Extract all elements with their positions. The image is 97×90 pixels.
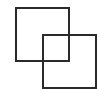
- square-front: [42, 34, 97, 89]
